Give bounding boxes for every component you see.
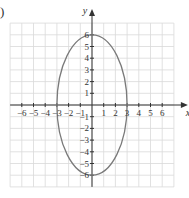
y-tick-label: −1 <box>79 112 89 122</box>
ellipse-chart: −6−5−4−3−2−1123456−6−5−4−3−2−1123456xy <box>0 0 189 198</box>
x-tick-label: 4 <box>137 108 142 118</box>
y-tick-label: −5 <box>79 159 89 169</box>
y-axis-arrow-icon <box>89 9 95 16</box>
y-tick-label: 5 <box>85 42 90 52</box>
y-tick-label: 1 <box>85 88 90 98</box>
axis-labels: −6−5−4−3−2−1123456−6−5−4−3−2−1123456xy <box>17 5 189 180</box>
x-tick-label: 1 <box>101 108 106 118</box>
x-tick-label: −4 <box>40 108 50 118</box>
x-tick-label: −6 <box>17 108 27 118</box>
x-tick-label: −3 <box>52 108 62 118</box>
x-tick-label: 5 <box>148 108 153 118</box>
y-axis-label: y <box>82 5 88 16</box>
x-tick-label: −2 <box>64 108 74 118</box>
x-tick-label: 3 <box>125 108 130 118</box>
x-tick-label: −5 <box>29 108 39 118</box>
y-tick-label: 6 <box>85 30 90 40</box>
y-tick-label: 2 <box>85 77 90 87</box>
x-tick-label: 6 <box>160 108 165 118</box>
y-tick-label: −4 <box>79 147 89 157</box>
y-tick-label: −2 <box>79 123 89 133</box>
y-tick-label: 4 <box>85 53 90 63</box>
x-tick-label: 2 <box>113 108 118 118</box>
y-tick-label: 3 <box>85 65 90 75</box>
y-tick-label: −3 <box>79 135 89 145</box>
y-tick-label: −6 <box>79 170 89 180</box>
x-axis-label: x <box>185 107 189 118</box>
